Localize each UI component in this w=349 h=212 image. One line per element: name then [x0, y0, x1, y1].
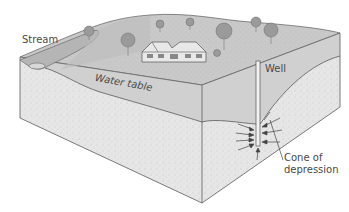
- well-pipe: [256, 61, 260, 146]
- well-label: Well: [265, 63, 286, 74]
- stream-channel: [29, 63, 45, 69]
- cone-label-line1: Cone of: [284, 152, 322, 163]
- stream-label: Stream: [22, 34, 58, 45]
- cone-label-line2: depression: [284, 164, 339, 175]
- groundwater-diagram: [0, 0, 349, 212]
